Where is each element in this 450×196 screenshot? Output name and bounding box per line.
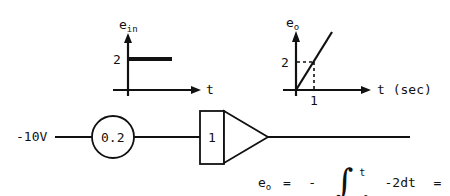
integral-upper-limit: t bbox=[359, 167, 365, 178]
integrator-gain-label: 1 bbox=[208, 131, 216, 144]
output-equation: eo = - ∫ t 0 -2dt = 2t bbox=[258, 152, 449, 186]
integral-lower-limit: 0 bbox=[363, 194, 369, 196]
source-voltage-label: -10V bbox=[16, 130, 47, 143]
equation-equals-sign: = bbox=[283, 175, 291, 190]
equation-lhs-subscript: o bbox=[266, 182, 271, 192]
figure-canvas: ein 2 t eo 2 1 t (sec) bbox=[0, 0, 450, 196]
gain-block-label: 0.2 bbox=[101, 131, 124, 144]
equation-lhs: eo bbox=[258, 175, 271, 190]
equation-integrand: -2dt bbox=[385, 175, 416, 190]
integral-symbol: ∫ bbox=[336, 161, 354, 196]
equation-result-equals: = bbox=[433, 175, 441, 190]
equation-minus-sign: - bbox=[308, 175, 316, 190]
